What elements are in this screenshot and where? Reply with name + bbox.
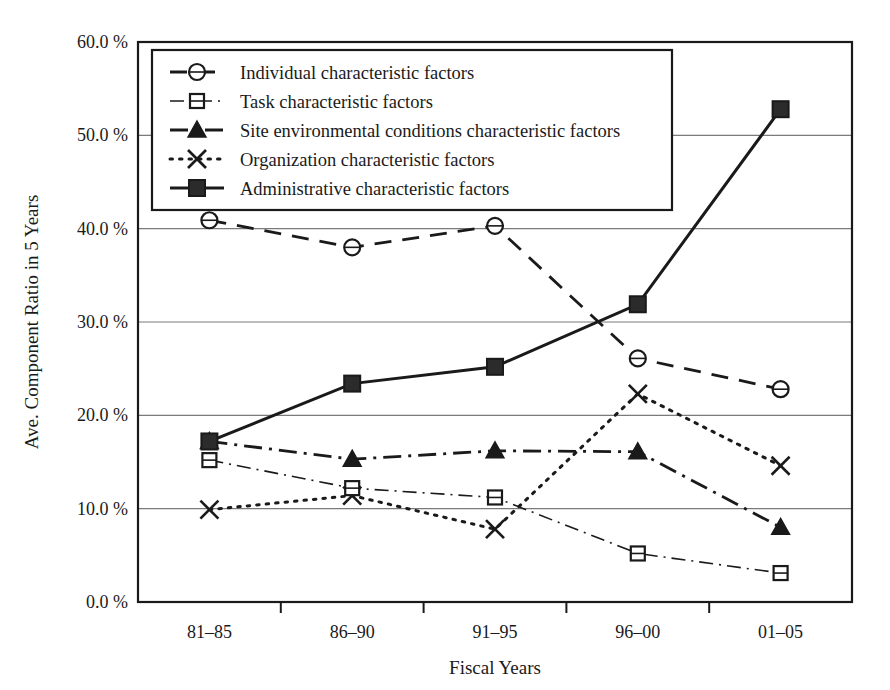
y-tick-label-0: 0.0 % [86, 592, 128, 612]
y-tick-label-2: 20.0 % [77, 405, 128, 425]
data-point-4-2 [487, 359, 503, 375]
y-tick-label-3: 30.0 % [77, 312, 128, 332]
data-point-4-3 [630, 296, 646, 312]
y-tick-label-6: 60.0 % [77, 32, 128, 52]
data-point-2-4 [772, 518, 790, 534]
legend-label-4: Administrative characteristic factors [240, 179, 509, 199]
y-tick-label-5: 50.0 % [77, 125, 128, 145]
series-line-1 [209, 460, 780, 573]
y-axis-title: Ave. Component Ratio in 5 Years [21, 195, 42, 450]
x-tick-label-1: 86–90 [330, 622, 375, 642]
y-tick-label-1: 10.0 % [77, 499, 128, 519]
series-1 [202, 453, 787, 580]
series-2 [200, 432, 789, 534]
legend: Individual characteristic factorsTask ch… [152, 50, 672, 210]
x-axis-ticks: 81–8586–9091–9596–0001–05 [187, 602, 803, 642]
x-axis-title: Fiscal Years [449, 657, 541, 678]
legend-marker-4 [189, 180, 205, 196]
legend-label-3: Organization characteristic factors [240, 150, 494, 170]
x-tick-label-4: 01–05 [758, 622, 803, 642]
data-point-4-1 [344, 376, 360, 392]
x-tick-label-0: 81–85 [187, 622, 232, 642]
legend-label-0: Individual characteristic factors [240, 63, 474, 83]
x-tick-label-3: 96–00 [615, 622, 660, 642]
line-chart: 0.0 %10.0 %20.0 %30.0 %40.0 %50.0 %60.0 … [0, 0, 890, 690]
y-axis-ticks: 0.0 %10.0 %20.0 %30.0 %40.0 %50.0 %60.0 … [77, 32, 128, 612]
y-tick-label-4: 40.0 % [77, 219, 128, 239]
chart-figure: 0.0 %10.0 %20.0 %30.0 %40.0 %50.0 %60.0 … [0, 0, 890, 690]
legend-label-1: Task characteristic factors [240, 92, 433, 112]
x-tick-label-2: 91–95 [473, 622, 518, 642]
data-point-4-0 [201, 433, 217, 449]
legend-label-2: Site environmental conditions characteri… [240, 121, 620, 141]
data-point-4-4 [773, 101, 789, 117]
